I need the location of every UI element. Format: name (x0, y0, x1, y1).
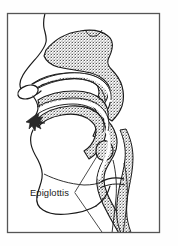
anatomy-figure: Epiglottis (0, 0, 178, 246)
epiglottis-label: Epiglottis (30, 187, 69, 198)
vocal-tract-diagram: Epiglottis (0, 0, 178, 246)
drawing-area: Epiglottis (8, 10, 159, 235)
